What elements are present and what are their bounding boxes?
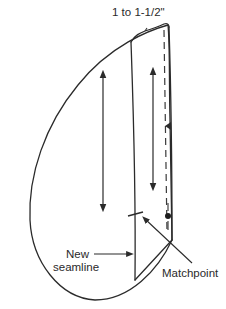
new-seamline [131, 42, 135, 280]
matchpoint-label: Matchpoint [162, 267, 219, 279]
dashed-fold-line [164, 30, 167, 233]
new-seamline-label-line1: New [66, 248, 90, 260]
new-seamline-label-line2: seamline [53, 261, 99, 273]
pattern-diagram: 1 to 1-1/2" New seamline Matchpoint [0, 0, 226, 309]
matchpoint-dot [165, 213, 171, 219]
pattern-outline [30, 25, 172, 300]
top-measurement-label: 1 to 1-1/2" [112, 6, 165, 18]
